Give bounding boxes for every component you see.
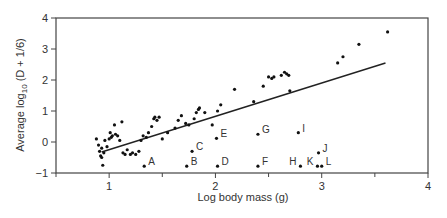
y-tick-label: 3: [42, 43, 48, 55]
data-point: [184, 122, 187, 125]
point-label: G: [262, 124, 270, 135]
data-point: [267, 75, 270, 78]
data-point: [153, 116, 156, 119]
data-point: [341, 55, 344, 58]
data-point: [262, 85, 265, 88]
data-point: [288, 89, 291, 92]
labeled-point: [216, 165, 219, 168]
point-label: K: [307, 156, 314, 167]
data-point: [173, 126, 176, 129]
labeled-point: [320, 165, 323, 168]
data-point: [134, 153, 137, 156]
data-point: [142, 134, 145, 137]
point-label: L: [326, 156, 332, 167]
scatter-chart: 1234 −101234 ABCDEFGHIJKL Log body mass …: [0, 0, 447, 218]
data-point: [102, 151, 105, 154]
data-point: [198, 106, 201, 109]
plot-border: [56, 18, 428, 173]
data-point: [137, 150, 140, 153]
data-point: [211, 123, 214, 126]
data-point: [336, 61, 339, 64]
x-tick-label: 4: [425, 180, 431, 192]
labeled-point: [185, 165, 188, 168]
data-point: [219, 103, 222, 106]
data-point: [161, 137, 164, 140]
data-point: [147, 131, 150, 134]
labeled-point: [215, 137, 218, 140]
data-point: [105, 145, 108, 148]
plot-frame: [56, 18, 428, 173]
data-point: [150, 125, 153, 128]
point-label: E: [220, 128, 227, 139]
y-tick-label: 4: [42, 12, 48, 24]
y-tick-label: −1: [35, 167, 48, 179]
data-point: [203, 111, 206, 114]
point-label: J: [323, 143, 328, 154]
y-axis: −101234: [35, 12, 56, 179]
data-point: [180, 114, 183, 117]
x-axis-label: Log body mass (g): [197, 191, 288, 203]
y-tick-label: 2: [42, 74, 48, 86]
regression-line: [102, 63, 386, 152]
labeled-point: [316, 165, 319, 168]
data-point: [103, 139, 106, 142]
point-label: D: [222, 156, 229, 167]
data-point: [287, 74, 290, 77]
regression-line-path: [102, 63, 386, 152]
data-point: [109, 131, 112, 134]
point-label: F: [262, 156, 268, 167]
data-point: [100, 147, 103, 150]
data-point: [139, 139, 142, 142]
labeled-point: [299, 165, 302, 168]
y-axis-label: Average log10 (D + 1/6): [14, 38, 29, 152]
data-point: [145, 136, 148, 139]
data-point: [155, 119, 158, 122]
data-point: [187, 123, 190, 126]
data-point: [177, 119, 180, 122]
data-point: [166, 131, 169, 134]
data-point: [386, 30, 389, 33]
data-point: [195, 111, 198, 114]
data-point: [95, 137, 98, 140]
data-point: [357, 43, 360, 46]
data-point: [280, 74, 283, 77]
data-point: [216, 109, 219, 112]
point-label: C: [196, 141, 203, 152]
point-label: H: [289, 156, 296, 167]
data-point: [98, 150, 101, 153]
data-point: [126, 148, 129, 151]
labeled-point: [190, 150, 193, 153]
labeled-point: [317, 151, 320, 154]
data-point: [272, 75, 275, 78]
data-point: [116, 134, 119, 137]
data-point: [97, 144, 100, 147]
data-point: [252, 100, 255, 103]
x-tick-label: 3: [319, 180, 325, 192]
data-point: [131, 151, 134, 154]
y-tick-label: 1: [42, 105, 48, 117]
data-point: [101, 164, 104, 167]
data-point: [120, 120, 123, 123]
point-label: B: [191, 156, 198, 167]
data-points: [95, 30, 389, 166]
data-point: [157, 116, 160, 119]
data-point: [113, 123, 116, 126]
data-point: [233, 88, 236, 91]
y-tick-label: 0: [42, 136, 48, 148]
x-tick-label: 1: [106, 180, 112, 192]
x-axis: 1234: [56, 173, 431, 192]
data-point: [118, 139, 121, 142]
labeled-point: [297, 131, 300, 134]
labeled-point: [256, 165, 259, 168]
data-point: [100, 156, 103, 159]
data-point: [111, 134, 114, 137]
data-point: [123, 153, 126, 156]
labeled-point: [256, 133, 259, 136]
labeled-point: [143, 165, 146, 168]
point-label: I: [302, 123, 305, 134]
point-label: A: [148, 156, 155, 167]
data-point: [193, 117, 196, 120]
